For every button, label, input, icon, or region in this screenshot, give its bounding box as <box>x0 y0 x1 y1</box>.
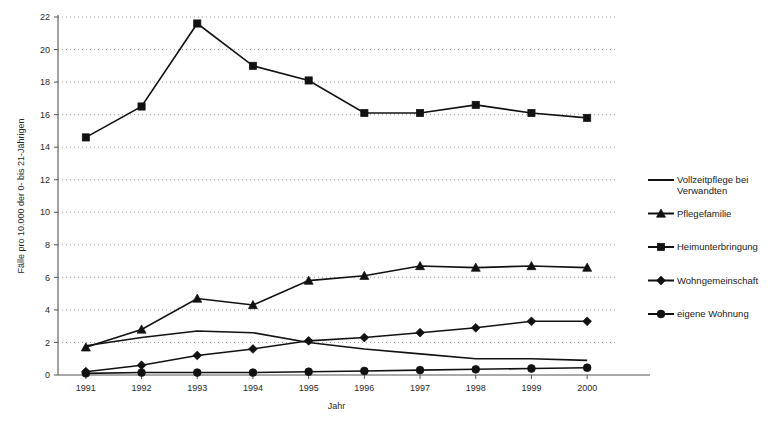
legend-label: Pflegefamilie <box>677 208 731 219</box>
y-tick-label-18: 18 <box>40 77 50 87</box>
x-tick-label-1994: 1994 <box>243 383 263 393</box>
marker-diamond <box>471 323 480 332</box>
marker-circle <box>82 369 90 377</box>
legend-label: eigene Wohnung <box>677 308 749 319</box>
series-heimunterbringung <box>82 20 591 141</box>
series-wohngemeinschaft <box>81 317 591 376</box>
y-axis-ticks: 0246810121416182022 <box>40 12 58 380</box>
series-line <box>86 331 587 360</box>
series-vollzeitpflege-bei-verwandten <box>86 331 587 360</box>
marker-circle <box>472 365 480 373</box>
marker-circle <box>138 369 146 377</box>
series-line <box>86 368 587 374</box>
y-axis-title: Fälle pro 10.000 der 0- bis 21-Jährigen <box>16 118 26 273</box>
series-line <box>86 321 587 371</box>
x-tick-label-2000: 2000 <box>577 383 597 393</box>
series-line <box>86 24 587 138</box>
marker-diamond <box>193 351 202 360</box>
x-tick-label-1995: 1995 <box>299 383 319 393</box>
marker-circle <box>249 369 257 377</box>
legend-item-pflegefamilie[interactable]: Pflegefamilie <box>648 208 731 219</box>
marker-square <box>528 109 535 116</box>
x-axis-title: Jahr <box>328 401 346 411</box>
y-tick-label-22: 22 <box>40 12 50 22</box>
x-tick-label-1997: 1997 <box>410 383 430 393</box>
y-tick-label-6: 6 <box>45 273 50 283</box>
legend-label-line2: Verwandten <box>677 185 727 196</box>
y-tick-label-20: 20 <box>40 45 50 55</box>
legend-item-eigene-wohnung[interactable]: eigene Wohnung <box>648 308 749 319</box>
marker-circle <box>305 368 313 376</box>
x-tick-label-1998: 1998 <box>466 383 486 393</box>
legend: Vollzeitpflege beiVerwandtenPflegefamili… <box>648 174 759 319</box>
legend-label: Wohngemeinschaft <box>677 275 759 286</box>
x-axis-ticks: 1991199219931994199519961997199819992000 <box>76 375 597 393</box>
y-tick-label-2: 2 <box>45 338 50 348</box>
marker-diamond <box>583 317 592 326</box>
marker-circle <box>583 364 591 372</box>
legend-label: Heimunterbringung <box>677 241 758 252</box>
marker-circle <box>193 369 201 377</box>
y-tick-label-0: 0 <box>45 370 50 380</box>
legend-item-heimunterbringung[interactable]: Heimunterbringung <box>648 241 758 252</box>
marker-square <box>657 243 664 250</box>
y-tick-label-12: 12 <box>40 175 50 185</box>
marker-square <box>194 20 201 27</box>
marker-square <box>584 114 591 121</box>
legend-item-vollzeitpflege-bei[interactable]: Vollzeitpflege beiVerwandten <box>648 174 748 196</box>
marker-circle <box>528 365 536 373</box>
series-group <box>81 20 591 377</box>
marker-diamond <box>360 333 369 342</box>
y-tick-label-16: 16 <box>40 110 50 120</box>
marker-square <box>416 109 423 116</box>
marker-square <box>138 103 145 110</box>
marker-circle <box>360 367 368 375</box>
marker-square <box>82 134 89 141</box>
legend-label: Vollzeitpflege bei <box>677 174 748 185</box>
marker-diamond <box>416 328 425 337</box>
marker-diamond <box>527 317 536 326</box>
marker-square <box>249 62 256 69</box>
x-tick-label-1999: 1999 <box>521 383 541 393</box>
marker-square <box>472 101 479 108</box>
marker-diamond <box>304 336 313 345</box>
x-tick-label-1991: 1991 <box>76 383 96 393</box>
marker-triangle <box>137 325 146 333</box>
x-tick-label-1992: 1992 <box>132 383 152 393</box>
marker-circle <box>657 310 665 318</box>
legend-item-wohngemeinschaft[interactable]: Wohngemeinschaft <box>648 275 759 286</box>
gridlines <box>58 17 615 342</box>
marker-diamond <box>657 276 666 285</box>
y-tick-label-4: 4 <box>45 305 50 315</box>
line-chart: 0246810121416182022199119921993199419951… <box>0 0 769 424</box>
y-tick-label-10: 10 <box>40 207 50 217</box>
marker-square <box>305 77 312 84</box>
y-tick-label-8: 8 <box>45 240 50 250</box>
chart-container: 0246810121416182022199119921993199419951… <box>0 0 769 424</box>
marker-square <box>361 109 368 116</box>
y-tick-label-14: 14 <box>40 142 50 152</box>
x-tick-label-1993: 1993 <box>187 383 207 393</box>
series-pflegefamilie <box>81 261 591 351</box>
x-tick-label-1996: 1996 <box>354 383 374 393</box>
marker-diamond <box>249 345 258 354</box>
marker-circle <box>416 366 424 374</box>
